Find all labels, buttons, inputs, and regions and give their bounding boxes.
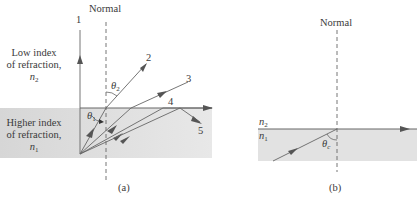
ray-2-arrow-icon bbox=[140, 63, 147, 72]
ray-2-label: 2 bbox=[146, 52, 151, 64]
n2-label-b: n2 bbox=[259, 116, 268, 131]
ray-3-label: 3 bbox=[186, 73, 191, 85]
normal-label-a: Normal bbox=[89, 3, 121, 15]
ray-5-label: 5 bbox=[198, 125, 203, 137]
panel-a bbox=[0, 22, 213, 180]
ray-3-arrow-icon bbox=[157, 91, 167, 98]
higher-index-label: Higher index of refraction, n1 bbox=[0, 117, 68, 156]
ray-1-label: 1 bbox=[76, 14, 81, 26]
theta-2-label: θ2 bbox=[111, 80, 120, 95]
caption-a: (a) bbox=[118, 182, 130, 194]
normal-label-b: Normal bbox=[320, 17, 352, 29]
higher-index-line2: of refraction, bbox=[0, 129, 68, 141]
low-index-label: Low index of refraction, n2 bbox=[2, 47, 66, 86]
n1-symbol: n1 bbox=[0, 141, 68, 156]
low-index-line1: Low index bbox=[2, 47, 66, 59]
n1-label-b: n1 bbox=[259, 130, 268, 145]
panel-b bbox=[258, 30, 417, 172]
theta-c-label: θc bbox=[322, 138, 330, 153]
higher-index-line1: Higher index bbox=[0, 117, 68, 129]
refraction-diagram bbox=[0, 0, 417, 197]
n2-symbol: n2 bbox=[2, 71, 66, 86]
theta-1-label: θ1 bbox=[87, 110, 96, 125]
ray-1-arrow-icon bbox=[77, 55, 83, 64]
ray-4-label: 4 bbox=[168, 96, 173, 108]
caption-b: (b) bbox=[329, 182, 341, 194]
low-index-line2: of refraction, bbox=[2, 59, 66, 71]
